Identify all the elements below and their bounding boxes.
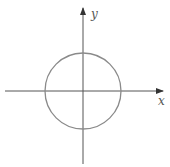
y-axis-label: y: [90, 7, 98, 21]
x-axis-label: x: [158, 94, 165, 108]
diagram-canvas: y x: [0, 0, 170, 167]
circle-diagram: y x: [0, 0, 170, 167]
